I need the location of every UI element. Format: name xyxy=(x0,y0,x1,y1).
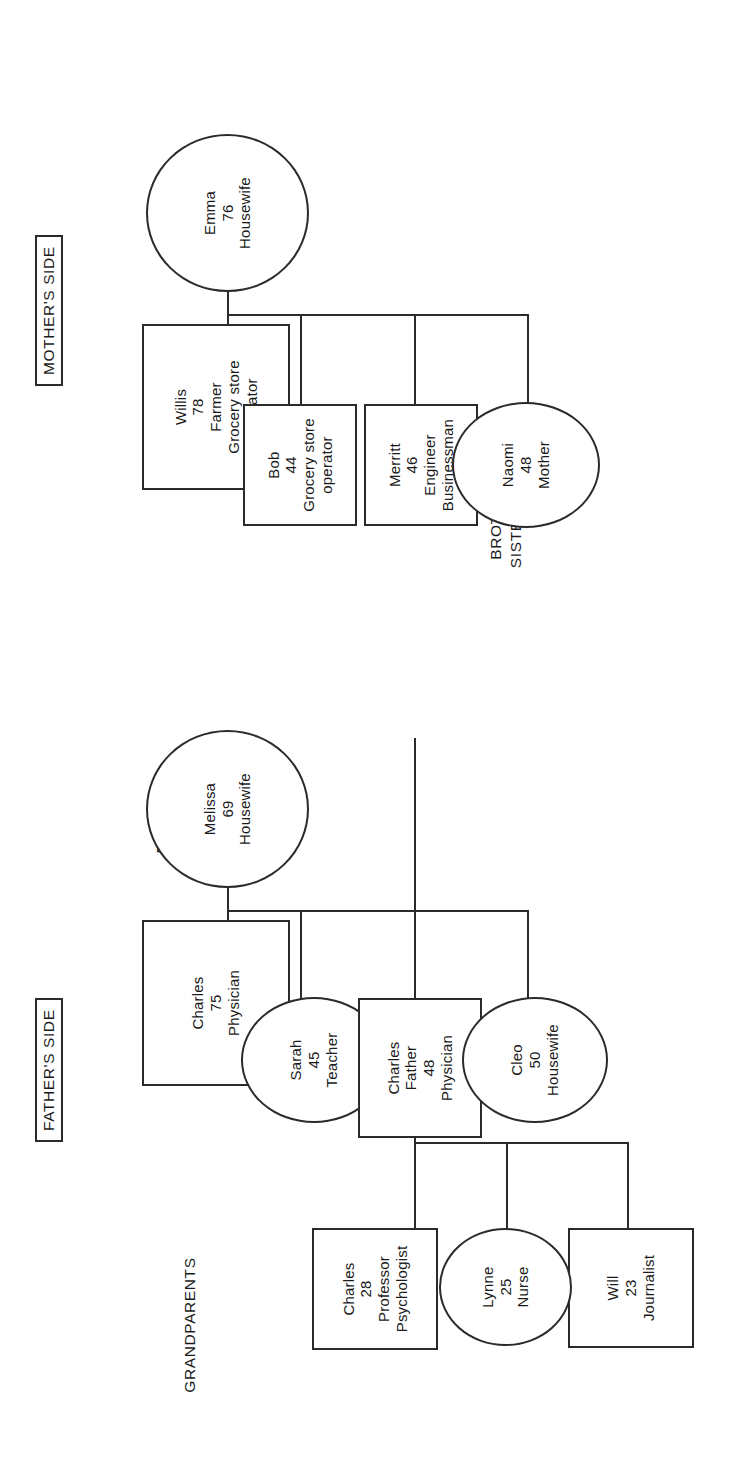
person-role-charles-grandfather: Physician xyxy=(225,970,243,1036)
person-node-melissa[interactable]: Melissa 69 Housewife xyxy=(146,730,309,888)
person-role-sarah: Teacher xyxy=(323,1033,341,1088)
side-label-mothers-side: MOTHER'S SIDE xyxy=(35,235,63,386)
genogram-screenshot: GRANDPARENTS PARENTS, UNCLES, AND AUNTS … xyxy=(0,0,751,1478)
person-role1-bob: Grocery store xyxy=(300,418,318,511)
person-role-lynne: Nurse xyxy=(514,1267,532,1308)
person-age-merritt: 46 xyxy=(403,456,421,473)
person-name-melissa: Melissa xyxy=(201,783,219,835)
person-role1-charles-sibling: Professor xyxy=(375,1256,393,1322)
person-name-charles-grandfather: Charles xyxy=(189,976,207,1029)
connector-to-naomi xyxy=(527,314,529,404)
person-role1-willis: Farmer xyxy=(207,382,225,432)
genogram-canvas: GRANDPARENTS PARENTS, UNCLES, AND AUNTS … xyxy=(0,0,751,1478)
person-age-charles-sibling: 28 xyxy=(357,1280,375,1297)
person-age-willis: 78 xyxy=(189,398,207,415)
connector-mothers-spine-upper xyxy=(227,314,302,316)
person-age-cleo: 50 xyxy=(526,1051,544,1068)
person-age-melissa: 69 xyxy=(219,800,237,817)
connector-to-merritt xyxy=(414,314,416,404)
person-age-naomi: 48 xyxy=(517,456,535,473)
person-age-father-charles: 48 xyxy=(420,1059,438,1076)
person-node-lynne[interactable]: Lynne 25 Nurse xyxy=(439,1228,572,1346)
person-name-father-charles: Charles xyxy=(385,1041,403,1094)
connector-children-spine xyxy=(414,1142,627,1144)
connector-to-sarah xyxy=(300,910,302,1000)
connector-willis-emma xyxy=(227,290,229,326)
connector-fathers-spine-upper xyxy=(227,910,302,912)
person-name-naomi: Naomi xyxy=(499,443,517,487)
person-age-bob: 44 xyxy=(282,456,300,473)
person-node-emma[interactable]: Emma 76 Housewife xyxy=(146,134,309,292)
person-name-merritt: Merritt xyxy=(386,443,404,487)
person-node-bob[interactable]: Bob 44 Grocery store operator xyxy=(243,404,357,526)
person-role-emma: Housewife xyxy=(236,177,254,249)
person-name-charles-sibling: Charles xyxy=(340,1262,358,1315)
person-age-sarah: 45 xyxy=(305,1051,323,1068)
person-name-lynne: Lynne xyxy=(479,1266,497,1307)
person-name-willis: Willis xyxy=(172,389,190,425)
person-node-cleo[interactable]: Cleo 50 Housewife xyxy=(462,997,608,1123)
person-role-naomi: Mother xyxy=(535,441,553,489)
person-role-father-charles: Physician xyxy=(438,1035,456,1101)
connector-charles75-melissa xyxy=(227,886,229,922)
person-name-emma: Emma xyxy=(201,191,219,235)
person-node-naomi[interactable]: Naomi 48 Mother xyxy=(452,402,600,528)
person-node-will[interactable]: Will 23 Journalist xyxy=(568,1228,694,1348)
person-role-melissa: Housewife xyxy=(236,773,254,845)
person-age-emma: 76 xyxy=(219,204,237,221)
person-role2-bob: operator xyxy=(318,436,336,493)
connector-to-lynne xyxy=(506,1142,508,1230)
person-age-charles-grandfather: 75 xyxy=(207,994,225,1011)
person-role-will: Journalist xyxy=(640,1255,658,1321)
person-name-sarah: Sarah xyxy=(287,1039,305,1080)
person-role1-merritt: Engineer xyxy=(421,434,439,496)
side-label-fathers-side: FATHER'S SIDE xyxy=(35,998,63,1142)
person-age-will: 23 xyxy=(622,1279,640,1296)
person-age-lynne: 25 xyxy=(497,1278,515,1295)
connector-to-cleo xyxy=(527,910,529,1000)
person-node-charles-sibling[interactable]: Charles 28 Professor Psychologist xyxy=(312,1228,438,1350)
connector-to-bob xyxy=(300,314,302,404)
person-role2-charles-sibling: Psychologist xyxy=(393,1246,411,1333)
generation-label-grandparents: GRANDPARENTS xyxy=(180,1230,200,1420)
person-role-cleo: Housewife xyxy=(544,1024,562,1096)
connector-to-charles28 xyxy=(414,1142,416,1230)
person-relation-father-charles: Father xyxy=(402,1046,420,1091)
person-name-cleo: Cleo xyxy=(508,1044,526,1076)
person-name-will: Will xyxy=(604,1276,622,1301)
person-name-bob: Bob xyxy=(265,451,283,478)
connector-to-will xyxy=(627,1142,629,1230)
person-role2-willis: Grocery store xyxy=(225,360,243,453)
